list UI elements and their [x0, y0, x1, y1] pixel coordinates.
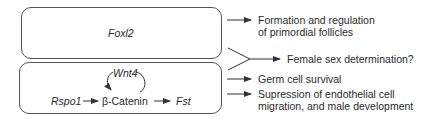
outcome-follicles: Formation and regulation of primordial f… — [258, 14, 375, 38]
wnt-converge-line — [228, 59, 250, 70]
outcome-germ-cell-line1: Germ cell survival — [258, 73, 341, 85]
beta-catenin-label: β-Catenin — [102, 96, 148, 107]
foxl2-label: Foxl2 — [108, 28, 134, 39]
outcome-suppression-line1: Supression of endothelial cell — [258, 88, 413, 100]
outcome-suppression-line2: migration, and male development — [258, 100, 413, 112]
outcome-sex-determination: Female sex determination? — [287, 53, 414, 65]
outcome-follicles-line1: Formation and regulation — [258, 14, 375, 26]
outcome-germ-cell: Germ cell survival — [258, 73, 341, 85]
fst-label: Fst — [176, 96, 191, 107]
outcome-follicles-line2: of primordial follicles — [258, 26, 375, 38]
rspo1-label: Rspo1 — [51, 96, 81, 107]
foxl2-converge-line — [228, 48, 250, 59]
wnt4-label: Wnt4 — [113, 68, 138, 79]
outcome-sex-determination-line1: Female sex determination? — [287, 53, 414, 65]
outcome-suppression: Supression of endothelial cell migration… — [258, 88, 413, 112]
